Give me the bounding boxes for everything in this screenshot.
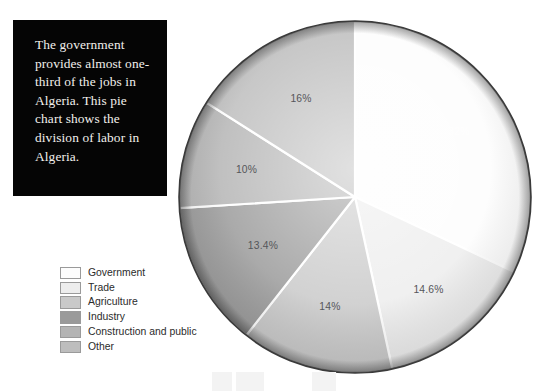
legend-item: Government — [60, 266, 240, 280]
scan-artifact — [312, 372, 336, 391]
scan-artifact — [236, 372, 264, 391]
legend-swatch — [60, 311, 81, 323]
chart-page: The government provides almost one-third… — [0, 0, 542, 391]
legend-swatch — [60, 267, 81, 279]
legend-label: Trade — [88, 283, 115, 293]
legend-item: Other — [60, 340, 240, 354]
pie-slice-label: 13.4% — [248, 240, 278, 251]
pie-slice-label: 16% — [290, 93, 311, 104]
legend-swatch — [60, 326, 81, 338]
caption-text: The government provides almost one-third… — [35, 36, 157, 166]
legend-item: Construction and public — [60, 325, 240, 339]
legend-item: Industry — [60, 310, 240, 324]
legend-label: Agriculture — [88, 297, 138, 307]
scan-artifact — [212, 372, 232, 391]
legend-swatch — [60, 296, 81, 308]
legend-item: Agriculture — [60, 296, 240, 310]
legend-label: Construction and public — [88, 327, 197, 337]
pie-slice-label: 10% — [236, 164, 257, 175]
pie-slice-label: 14% — [319, 301, 340, 312]
pie-slice-label: 14.6% — [413, 284, 443, 295]
legend-item: Trade — [60, 281, 240, 295]
legend-label: Other — [88, 342, 114, 352]
legend-swatch — [60, 282, 81, 294]
legend-label: Government — [88, 268, 145, 278]
caption-box: The government provides almost one-third… — [13, 20, 167, 196]
legend-swatch — [60, 341, 81, 353]
legend-label: Industry — [88, 312, 125, 322]
pie-slice-label: 32% — [448, 126, 469, 137]
chart-legend: GovernmentTradeAgricultureIndustryConstr… — [60, 266, 240, 355]
